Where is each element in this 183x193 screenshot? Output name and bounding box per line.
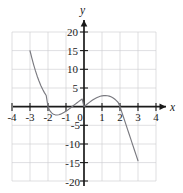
ticklabel-y-neg20: -20 [65,176,80,188]
ticklabel-y-10: 10 [67,63,79,75]
chart-canvas: 20 15 10 5 -5 -10 -15 -20 -4 -3 -2 -1 1 … [0,0,183,193]
y-axis-arrowhead [81,20,88,27]
chart-figure: 20 15 10 5 -5 -10 -15 -20 -4 -3 -2 -1 1 … [0,0,183,193]
ticklabel-x-neg2: -2 [43,111,52,123]
ticklabel-x-neg4: -4 [7,111,17,123]
ticklabel-y-15: 15 [67,45,79,57]
ticklabel-x-3: 3 [135,111,141,123]
x-axis-label: x [169,101,176,113]
ticklabel-x-neg3: -3 [25,111,35,123]
ticklabel-x-2: 2 [117,111,123,123]
y-axis-label: y [79,4,86,17]
ticklabel-x-4: 4 [153,111,159,123]
ticklabel-y-neg15: -15 [65,157,80,169]
ticklabel-y-neg10: -10 [65,138,80,150]
ticklabel-x-neg1: -1 [61,111,70,123]
ticklabel-x-1: 1 [99,111,105,123]
ticklabel-origin: 0 [77,111,83,123]
ticklabel-y-20: 20 [67,26,79,38]
ticklabel-y-5: 5 [73,82,79,94]
x-axis-arrowhead [160,103,167,110]
